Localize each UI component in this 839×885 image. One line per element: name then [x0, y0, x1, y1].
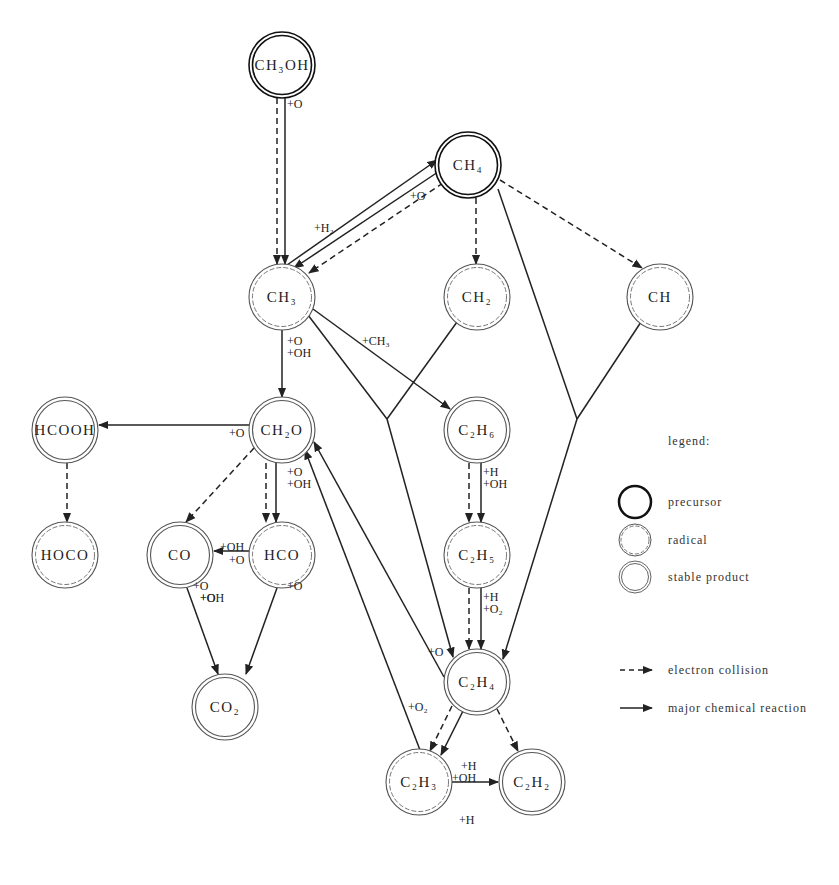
legend: legend: precursor radical stable product… [619, 434, 807, 715]
edge-ch-merge [577, 322, 641, 419]
legend-precursor-label: precursor [668, 495, 722, 509]
node-label: CO₂ [210, 699, 241, 715]
edge-merge-c2h4 [503, 419, 577, 659]
reaction-condition-label: +O₂ [483, 602, 503, 616]
radical-circle-inner-icon [621, 526, 649, 554]
reaction-condition-label: +OH [452, 771, 476, 785]
node-label: C₂H₆ [458, 422, 495, 438]
node-label: CH₄ [453, 157, 484, 173]
node-label: C₂H₃ [400, 774, 437, 790]
edge-ch3-ch4-reaction [287, 160, 437, 265]
node-label: CH₂ [462, 289, 493, 305]
legend-radical-label: radical [668, 533, 708, 547]
node-ch: CH [627, 264, 693, 330]
node-c2h4: C₂H₄ [444, 649, 510, 715]
edge-ch4-ch3-reaction [294, 170, 441, 268]
node-c2h2: C₂H₂ [499, 749, 565, 815]
reaction-condition-label: +OH [287, 477, 311, 491]
edge-hco-co2-reaction [246, 588, 277, 674]
edge-ch4-merge [498, 189, 577, 419]
node-label: CO [168, 547, 192, 563]
reaction-condition-label: +O₂ [408, 700, 428, 714]
node-c2h5: C₂H₅ [444, 522, 510, 588]
legend-stable: stable product [619, 561, 750, 593]
reaction-condition-label: +CH₃ [362, 334, 390, 348]
legend-title: legend: [668, 434, 710, 448]
edge-c2h4-c2h3-electron [430, 706, 452, 751]
node-label: HOCO [41, 547, 90, 563]
node-hco: HCO [249, 522, 315, 588]
reaction-condition-label: +OH [287, 346, 311, 360]
legend-radical: radical [619, 524, 708, 556]
node-label: CH₃ [267, 289, 298, 305]
reaction-condition-label: +OH [200, 591, 224, 605]
stable-circle-inner-icon [622, 564, 649, 591]
node-hcooh: HCOOH [32, 397, 98, 463]
node-label: HCOOH [35, 422, 96, 438]
node-ch2o: CH₂O [249, 397, 315, 463]
node-hoco: HOCO [32, 522, 98, 588]
edge-c2h4-c2h2-electron [497, 709, 518, 751]
node-label: HCO [264, 547, 300, 563]
node-label: CH [648, 289, 672, 305]
node-label: CH₂O [261, 422, 304, 438]
nodes: CH₃OHCH₄CH₃CH₂CHHCOOHCH₂OC₂H₆HOCOCOHCOC₂… [32, 32, 693, 815]
reaction-condition-label: +H [459, 813, 475, 827]
legend-electron-label: electron collision [668, 663, 769, 677]
reaction-network-diagram: CH₃OHCH₄CH₃CH₂CHHCOOHCH₂OC₂H₆HOCOCOHCOC₂… [0, 0, 839, 885]
node-c2h6: C₂H₆ [444, 397, 510, 463]
reaction-condition-label: +H₂ [314, 221, 334, 235]
reaction-condition-label: +O [287, 579, 303, 593]
edges [67, 98, 642, 782]
legend-electron-collision: electron collision [620, 663, 769, 677]
node-label: C₂H₄ [458, 674, 495, 690]
node-ch4: CH₄ [435, 132, 501, 198]
reaction-condition-label: +OH [220, 540, 244, 554]
stable-circle-icon [619, 561, 651, 593]
precursor-circle-icon [619, 486, 651, 518]
node-ch3: CH₃ [249, 264, 315, 330]
reaction-condition-label: +O [229, 426, 245, 440]
reaction-condition-label: +O [287, 97, 303, 111]
legend-precursor: precursor [619, 486, 722, 518]
legend-stable-label: stable product [668, 570, 750, 584]
radical-circle-icon [619, 524, 651, 556]
node-label: C₂H₂ [513, 774, 550, 790]
node-c2h3: C₂H₃ [386, 749, 452, 815]
node-ch2: CH₂ [444, 264, 510, 330]
edge-ch2o-co-electron [186, 448, 254, 522]
node-label: C₂H₅ [458, 547, 495, 563]
reaction-condition-label: +O [410, 189, 426, 203]
node-label: CH₃OH [254, 57, 309, 73]
edge-c2h4-c2h3-reaction [441, 711, 463, 755]
legend-chemical-reaction: major chemical reaction [620, 701, 807, 715]
edge-merge2-c2h4 [387, 419, 453, 657]
reaction-condition-label: +O [229, 553, 245, 567]
edge-c2h3-ch2o-reaction [305, 450, 420, 750]
reaction-condition-label: +OH [483, 477, 507, 491]
edge-ch3-merge [308, 315, 387, 419]
reaction-condition-label: +O [428, 645, 444, 659]
node-ch3oh: CH₃OH [249, 32, 315, 98]
node-co2: CO₂ [192, 674, 258, 740]
legend-reaction-label: major chemical reaction [668, 701, 807, 715]
